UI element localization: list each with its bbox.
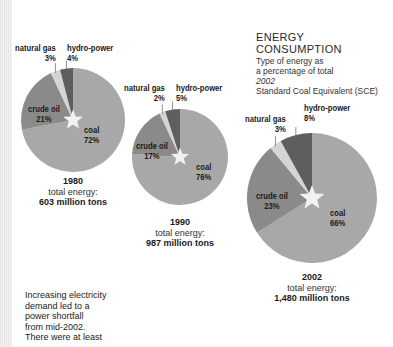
label-1990-coal: coal 76% [196, 163, 211, 182]
label-pct: 3% [245, 125, 286, 135]
label-pct: 3% [15, 54, 56, 64]
label-1980-hydro-power: hydro-power 4% [67, 44, 113, 63]
label-pct: 21% [28, 115, 60, 125]
caption-year: 1990 [140, 217, 220, 228]
note-line: power shortfall [25, 311, 107, 322]
note-line: demand led to a [25, 301, 107, 312]
label-pct: 2% [124, 94, 165, 104]
label-pct: 4% [67, 54, 113, 64]
note-line: There were at least [25, 332, 107, 343]
caption-total-label: total energy: [33, 187, 113, 198]
label-pct: 17% [136, 152, 168, 162]
label-pct: 5% [176, 94, 222, 104]
label-2002-hydro-power: hydro-power 8% [304, 104, 350, 123]
note-line: from mid-2002. [25, 322, 107, 333]
label-1980-natural-gas: natural gas 3% [15, 44, 56, 63]
caption-2002: 2002 total energy: 1,480 million tons [267, 272, 357, 304]
footnote-text: Increasing electricity demand led to a p… [25, 290, 107, 343]
label-pct: 72% [84, 136, 99, 146]
caption-total-value: 987 million tons [140, 238, 220, 249]
label-1990-hydro-power: hydro-power 5% [176, 84, 222, 103]
caption-year: 2002 [267, 272, 357, 283]
label-pct: 23% [256, 202, 288, 212]
label-2002-crude-oil: crude oil 23% [256, 192, 288, 211]
label-pct: 8% [304, 114, 350, 124]
label-1980-coal: coal 72% [84, 126, 99, 145]
label-2002-natural-gas: natural gas 3% [245, 115, 286, 134]
label-1980-crude-oil: crude oil 21% [28, 105, 60, 124]
note-line: Increasing electricity [25, 290, 107, 301]
label-pct: 66% [330, 219, 345, 229]
caption-total-label: total energy: [267, 283, 357, 294]
label-1990-natural-gas: natural gas 2% [124, 84, 165, 103]
caption-1980: 1980 total energy: 603 million tons [33, 176, 113, 208]
caption-total-value: 603 million tons [33, 197, 113, 208]
caption-total-label: total energy: [140, 228, 220, 239]
caption-1990: 1990 total energy: 987 million tons [140, 217, 220, 249]
label-1990-crude-oil: crude oil 17% [136, 142, 168, 161]
label-pct: 76% [196, 173, 211, 183]
label-2002-coal: coal 66% [330, 209, 345, 228]
caption-year: 1980 [33, 176, 113, 187]
caption-total-value: 1,480 million tons [267, 293, 357, 304]
